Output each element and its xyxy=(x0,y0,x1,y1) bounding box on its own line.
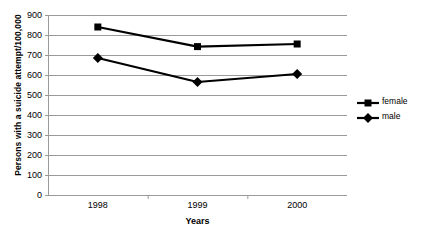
data-point-marker xyxy=(365,99,372,106)
data-point-marker xyxy=(94,24,101,31)
y-tick-label: 700 xyxy=(12,51,42,60)
y-tick-label: 400 xyxy=(12,111,42,120)
legend-item-female[interactable]: female xyxy=(356,93,422,108)
line-chart: Persons with a suicide attempt/100,000 0… xyxy=(0,0,424,241)
legend-swatch-svg xyxy=(356,112,380,124)
chart-legend: femalemale xyxy=(356,93,422,123)
y-tick-label: 900 xyxy=(12,11,42,20)
plot-svg xyxy=(48,15,347,195)
y-tick-label: 500 xyxy=(12,91,42,100)
data-point-marker xyxy=(292,69,302,79)
legend-label: female xyxy=(380,96,408,106)
data-point-marker xyxy=(192,77,202,87)
y-tick-label: 800 xyxy=(12,31,42,40)
data-point-marker xyxy=(194,43,201,50)
x-tick-label: 1998 xyxy=(68,200,128,210)
legend-item-male[interactable]: male xyxy=(356,108,422,123)
data-point-marker xyxy=(363,112,373,122)
series-male xyxy=(93,53,302,87)
data-point-marker xyxy=(294,41,301,48)
y-tick-label: 600 xyxy=(12,71,42,80)
legend-swatch-svg xyxy=(356,97,380,109)
legend-marker-square-icon xyxy=(356,95,380,107)
plot-area xyxy=(48,15,347,195)
y-tick-label: 300 xyxy=(12,131,42,140)
y-tick-label: 0 xyxy=(12,191,42,200)
series-female xyxy=(94,24,300,51)
legend-label: male xyxy=(380,111,400,121)
data-point-marker xyxy=(93,53,103,63)
x-tick-label: 1999 xyxy=(168,200,228,210)
y-tick-label: 100 xyxy=(12,171,42,180)
x-tick-label: 2000 xyxy=(267,200,327,210)
x-axis-title: Years xyxy=(48,216,347,226)
y-tick-label: 200 xyxy=(12,151,42,160)
legend-marker-diamond-icon xyxy=(356,110,380,122)
